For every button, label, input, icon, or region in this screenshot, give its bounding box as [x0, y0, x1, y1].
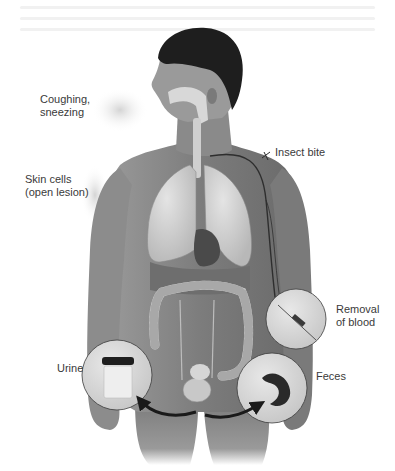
bladder: [183, 378, 211, 402]
specimen-cup-body: [104, 366, 132, 398]
ear: [207, 88, 217, 104]
feces-specimen-inset: [237, 353, 307, 423]
label-skin-cells: Skin cells (open lesion): [25, 173, 89, 199]
label-urine: Urine: [57, 362, 83, 375]
label-coughing-sneezing: Coughing, sneezing: [40, 93, 90, 119]
specimen-cup-lid: [102, 357, 134, 365]
label-removal-of-blood: Removal of blood: [336, 303, 379, 329]
blood-draw-inset: [266, 289, 326, 349]
rectum: [190, 364, 210, 380]
label-insect-bite: Insect bite: [275, 146, 325, 159]
label-feces: Feces: [316, 370, 346, 383]
trachea: [193, 118, 201, 178]
anatomy-illustration: [0, 0, 395, 471]
cough-spray-cloud: [92, 88, 148, 132]
